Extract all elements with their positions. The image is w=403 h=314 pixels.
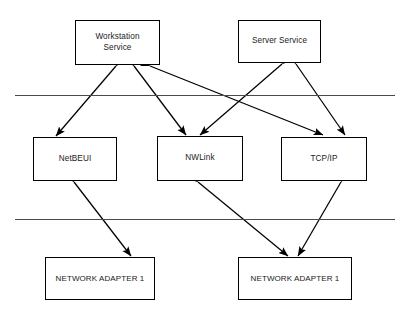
node-network-adapter-right[interactable]: NETWORK ADAPTER 1 — [238, 257, 352, 300]
node-tcpip[interactable]: TCP/IP — [281, 137, 367, 181]
node-network-adapter-left-label: NETWORK ADAPTER 1 — [56, 274, 145, 284]
node-network-adapter-right-label: NETWORK ADAPTER 1 — [251, 274, 340, 284]
adapter-layer-divider — [15, 219, 395, 220]
node-netbeui-label: NetBEUI — [59, 154, 92, 164]
service-layer-divider — [15, 95, 395, 96]
node-server-service-label: Server Service — [252, 36, 307, 46]
network-architecture-diagram: Workstation Service Server Service NetBE… — [0, 0, 403, 314]
node-netbeui[interactable]: NetBEUI — [33, 137, 117, 181]
connector-server-nwlink — [200, 64, 282, 135]
node-workstation-service-label: Workstation Service — [95, 32, 139, 53]
connector-workstation-nwlink — [134, 66, 186, 135]
node-nwlink-label: NWLink — [185, 153, 214, 163]
node-workstation-service[interactable]: Workstation Service — [75, 20, 160, 65]
node-network-adapter-left[interactable]: NETWORK ADAPTER 1 — [45, 257, 155, 300]
connector-server-tcpip — [296, 64, 345, 135]
node-tcpip-label: TCP/IP — [311, 154, 338, 164]
connector-workstation-netbeui — [56, 66, 116, 136]
node-nwlink[interactable]: NWLink — [157, 136, 243, 181]
node-server-service[interactable]: Server Service — [238, 20, 321, 63]
connector-workstation-tcpip — [150, 66, 323, 135]
